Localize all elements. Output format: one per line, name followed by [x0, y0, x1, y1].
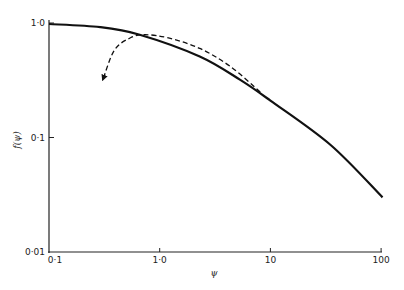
y-tick-label: 0·1: [31, 133, 45, 143]
series-line-dashed: [103, 35, 260, 92]
axes: [48, 20, 382, 253]
x-ticks: 0·11·010100: [48, 248, 390, 265]
y-tick-label: 1·0: [31, 18, 46, 28]
series-line-solid: [49, 24, 383, 197]
x-tick-label: 100: [373, 255, 390, 265]
x-tick-label: 1·0: [153, 255, 168, 265]
series-group: [49, 24, 383, 197]
x-axis-label: ψ: [210, 268, 218, 278]
y-ticks: 0·010·11·0: [25, 18, 54, 257]
y-tick-label: 0·01: [25, 247, 45, 257]
x-tick-label: 10: [265, 255, 277, 265]
y-axis-label: f(ψ): [12, 131, 22, 150]
chart: 0·11·010100 0·010·11·0 ψ f(ψ): [0, 0, 404, 290]
x-tick-label: 0·1: [48, 255, 62, 265]
